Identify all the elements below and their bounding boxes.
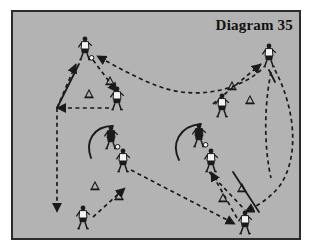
- player-top-right: [262, 44, 275, 67]
- ball-icon: [203, 143, 208, 148]
- turn-arcs-layer: [89, 124, 201, 160]
- path-center-left-down-right-long: [131, 170, 235, 224]
- diagram-canvas: [13, 12, 299, 238]
- path-bottom-left-up-to-cone: [93, 188, 125, 217]
- cone-upper-left-b: [84, 90, 93, 98]
- player-bottom-right: [238, 211, 251, 234]
- diagram-title: Diagram 35: [216, 18, 293, 33]
- dashed-paths-layer: [57, 56, 293, 224]
- player-center-left-ball: [104, 126, 120, 150]
- cone-upper-right-b: [245, 96, 254, 104]
- player-center-right-ball: [192, 124, 208, 148]
- path-mid-right-up-to-top-right: [213, 64, 261, 104]
- player-center-left-low: [116, 149, 129, 172]
- path-top-long-curve-right-to-left: [97, 56, 261, 93]
- cone-lower-left-a: [90, 182, 99, 190]
- player-center-right-low: [204, 149, 217, 172]
- diagram-frame: Diagram 35: [11, 10, 301, 240]
- path-right-inner-curve-down: [266, 72, 271, 178]
- path-right-long-curve-down: [245, 70, 293, 212]
- solid-paths-layer: [57, 64, 275, 212]
- player-upper-right-mid: [215, 94, 228, 117]
- ball-icon: [89, 56, 94, 61]
- player-bottom-left: [76, 206, 89, 229]
- player-top-left: [78, 37, 94, 61]
- diagram-root: Diagram 35: [0, 0, 312, 251]
- player-upper-left-mid: [110, 87, 123, 110]
- run-top-left-down-left: [57, 64, 79, 108]
- ball-icon: [115, 145, 120, 150]
- cone-lower-right-b: [237, 184, 246, 192]
